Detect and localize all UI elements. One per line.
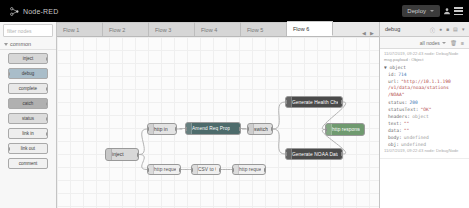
node-output-port[interactable] [137, 152, 139, 157]
palette-node-catch[interactable]: catch [8, 98, 48, 109]
debug-property-value: undefined [401, 141, 426, 148]
debug-property-row[interactable]: status:200 [384, 99, 465, 106]
workspace-tab-flow-2[interactable]: Flow 2 [103, 22, 149, 36]
flow-wire[interactable] [273, 102, 285, 129]
palette-search-placeholder: filter nodes [7, 28, 31, 34]
workspace-tab-flow-6[interactable]: Flow 6 [287, 21, 333, 36]
palette-search-input[interactable]: filter nodes [3, 24, 53, 37]
workspace-tab-flow-1[interactable]: Flow 1 [57, 22, 103, 36]
palette-node-link-out[interactable]: link out [8, 143, 48, 154]
debug-property-row[interactable]: id:714 [384, 71, 465, 78]
flow-node-generate-health-check[interactable]: Generate Health Check [285, 96, 343, 108]
palette-category-common[interactable]: common [0, 39, 56, 50]
workspace-tab-flow-4[interactable]: Flow 4 [195, 22, 241, 36]
workspace-tab-flow-5[interactable]: Flow 5 [241, 22, 287, 36]
app-logo[interactable]: Node-RED [0, 6, 58, 17]
debug-value-continuation: /v1/data/noaa/stations [384, 85, 465, 92]
node-input-port[interactable] [191, 167, 193, 172]
palette-node-label: inject [23, 56, 34, 61]
node-output-port[interactable] [219, 167, 221, 172]
palette-node-label: debug [22, 71, 35, 76]
flow-node-http-request[interactable]: http request [147, 164, 181, 175]
hamburger-menu-icon[interactable] [454, 6, 463, 16]
debug-property-row[interactable]: body:undefined [384, 134, 465, 141]
debug-property-row[interactable]: obj:undefined [384, 141, 465, 148]
debug-property-row[interactable]: text:"" [384, 120, 465, 127]
collapse-icon[interactable]: ≡ [461, 40, 464, 46]
debug-property-row[interactable]: ▼ object [384, 64, 465, 71]
palette-node-debug[interactable]: debug [8, 68, 48, 79]
debug-property-row[interactable]: headers:object [384, 113, 465, 120]
node-output-port[interactable] [341, 100, 343, 105]
debug-property-key: url: [388, 78, 399, 85]
flow-node-http-request[interactable]: http request [232, 164, 266, 175]
palette-node-link-in[interactable]: link in [8, 128, 48, 139]
debug-icon[interactable]: ● [439, 26, 442, 32]
flow-node-http-response[interactable]: http response [325, 123, 365, 136]
flow-wire[interactable] [273, 129, 285, 154]
config-icon[interactable]: ▤ [453, 26, 458, 32]
node-input-port[interactable] [147, 127, 149, 132]
flow-wire[interactable] [139, 129, 147, 155]
user-icon[interactable] [443, 7, 451, 15]
node-input-port[interactable] [285, 152, 287, 157]
palette-node-status[interactable]: status [8, 113, 48, 124]
debug-property-value: object [412, 113, 429, 120]
node-output-port[interactable] [175, 127, 177, 132]
info-icon[interactable]: ⓘ [430, 26, 435, 33]
right-sidebar: debug ⓘ ● ■ ▤ ▾ all nodes 🗑 ≡ 11/07/2019… [379, 22, 469, 208]
trash-icon[interactable]: 🗑 [450, 40, 457, 46]
node-input-port[interactable] [232, 167, 234, 172]
workspace-tab-label: Flow 4 [201, 27, 217, 33]
flow-wire[interactable] [177, 129, 185, 130]
workspace-tab-label: Flow 3 [155, 27, 171, 33]
palette-node-output-port [46, 117, 48, 121]
node-output-port[interactable] [239, 126, 241, 131]
chevron-down-icon[interactable] [430, 10, 434, 12]
flow-node-switch[interactable]: switch [247, 123, 273, 135]
flow-wire[interactable] [139, 155, 147, 170]
flow-node-http-in[interactable]: http in [147, 123, 177, 135]
tab-next-arrow[interactable]: ▶ [370, 31, 374, 36]
tab-debug[interactable]: debug [380, 26, 400, 32]
node-output-port[interactable] [341, 152, 343, 157]
debug-message[interactable]: 11/07/2019, 09:22:43 node: DebugNodemsg.… [380, 49, 469, 159]
more-icon[interactable]: ▾ [462, 26, 465, 32]
debug-message-footer: 11/07/2019, 09:22:43 node: DebugNode [384, 148, 465, 154]
node-input-port[interactable] [247, 127, 249, 132]
palette-node-label: catch [23, 101, 34, 106]
debug-property-value: "OK" [420, 106, 431, 113]
palette-node-comment[interactable]: comment [8, 158, 48, 169]
node-input-port[interactable] [285, 100, 287, 105]
palette-node-complete[interactable]: complete [8, 83, 48, 94]
palette-node-output-port [46, 87, 48, 91]
node-input-port[interactable] [147, 167, 149, 172]
tabbar-controls: ◀ ▶ [357, 31, 379, 36]
flow-node-csv-to-obj[interactable]: CSV to Obj [191, 164, 221, 175]
flow-node-inject[interactable]: inject [105, 148, 139, 161]
flow-node-amend-req-prop[interactable]: Amend Req Prop [185, 122, 241, 135]
tab-prev-arrow[interactable]: ◀ [362, 31, 366, 36]
deploy-button[interactable]: Deploy [402, 5, 440, 17]
node-output-port[interactable] [264, 167, 266, 172]
palette-node-label: comment [19, 161, 38, 166]
workspace-tab-flow-3[interactable]: Flow 3 [149, 22, 195, 36]
palette-node-output-port [46, 132, 48, 136]
debug-property-row[interactable]: url:"http://10.1.1.190 [384, 78, 465, 85]
node-output-port[interactable] [271, 127, 273, 132]
node-input-port[interactable] [185, 126, 187, 131]
flow-node-generate-noaa-dataset[interactable]: Generate NOAA Dataset [285, 148, 343, 160]
node-input-port[interactable] [325, 127, 327, 132]
debug-property-row[interactable]: data:"" [384, 127, 465, 134]
flow-node-label: http in [154, 127, 168, 132]
dashboard-icon[interactable]: ■ [446, 26, 449, 32]
palette-node-inject[interactable]: inject [8, 53, 48, 64]
palette-node-label: complete [19, 86, 37, 91]
flow-node-label: http request [154, 167, 176, 172]
debug-filter-button[interactable]: all nodes [420, 40, 446, 46]
header-actions: Deploy [402, 5, 469, 17]
node-output-port[interactable] [179, 167, 181, 172]
debug-property-row[interactable]: statusText:"OK" [384, 106, 465, 113]
flow-canvas[interactable]: injecthttp inAmend Req PropswitchGenerat… [57, 37, 379, 208]
debug-message-list[interactable]: 11/07/2019, 09:22:43 node: DebugNodemsg.… [380, 49, 469, 208]
